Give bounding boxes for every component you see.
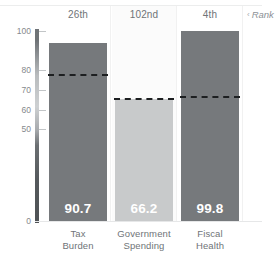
bar-value-fiscal-health: 99.8 — [181, 201, 239, 216]
y-tick-60 — [39, 110, 46, 111]
rank-legend-label: Rank — [252, 9, 274, 20]
y-tick-label-100: 100 — [2, 27, 31, 36]
category-label-line1: Tax — [42, 228, 114, 240]
category-label-line1: Fiscal — [174, 228, 246, 240]
bar-value-government-spending: 66.2 — [115, 201, 173, 216]
bar-fiscal-health[interactable]: 99.8 — [181, 31, 239, 221]
column-separator-3 — [242, 6, 243, 221]
column-separator-2 — [176, 6, 177, 221]
y-tick-label-80: 80 — [2, 66, 31, 75]
bar-value-tax-burden: 90.7 — [49, 201, 107, 216]
column-separator-1 — [110, 6, 111, 221]
rank-label-fiscal-health: 4th — [178, 8, 242, 22]
baseline-rule — [35, 221, 262, 222]
reference-line-tax-burden — [48, 74, 108, 76]
category-label-line2: Burden — [42, 240, 114, 252]
y-axis-line — [35, 29, 39, 223]
y-tick-label-60: 60 — [2, 106, 31, 115]
bar-chart-panel: 26th 102nd 4th ‹Rank 100 80 70 60 50 0 9… — [0, 0, 280, 257]
category-label-line2: Health — [174, 240, 246, 252]
category-label-fiscal-health: Fiscal Health — [174, 228, 246, 251]
category-label-line1: Government — [108, 228, 180, 240]
bar-tax-burden[interactable]: 90.7 — [49, 43, 107, 221]
y-tick-label-70: 70 — [2, 86, 31, 95]
y-tick-80 — [39, 70, 46, 71]
rank-label-tax-burden: 26th — [46, 8, 110, 22]
y-tick-label-0: 0 — [2, 217, 31, 226]
category-label-line2: Spending — [108, 240, 180, 252]
y-tick-50 — [39, 129, 46, 130]
reference-line-government-spending — [114, 98, 174, 100]
category-label-tax-burden: Tax Burden — [42, 228, 114, 251]
y-tick-label-50: 50 — [2, 125, 31, 134]
rank-legend: ‹Rank — [247, 8, 274, 22]
reference-line-fiscal-health — [180, 96, 240, 98]
y-tick-100 — [39, 31, 46, 32]
chevron-left-icon: ‹ — [247, 10, 250, 19]
category-label-government-spending: Government Spending — [108, 228, 180, 251]
y-tick-70 — [39, 90, 46, 91]
rank-row: 26th 102nd 4th ‹Rank — [0, 8, 280, 24]
bar-government-spending[interactable]: 66.2 — [115, 99, 173, 221]
rank-label-government-spending: 102nd — [112, 8, 176, 22]
